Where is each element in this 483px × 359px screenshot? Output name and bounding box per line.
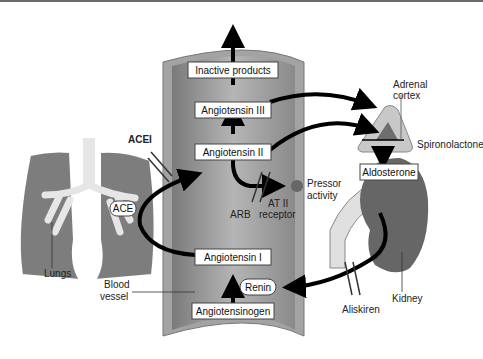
angiotensinogen-label: Angiotensinogen (196, 306, 271, 317)
adrenal-label-2: cortex (393, 90, 420, 101)
angiotensin-i-label: Angiotensin I (204, 252, 262, 263)
blood-vessel-label-2: vessel (100, 291, 128, 302)
angiotensin-iii-label: Angiotensin III (201, 105, 264, 116)
at2-label-1: AT II (268, 198, 288, 209)
adrenal-label-1: Adrenal (393, 79, 427, 90)
raas-diagram: Inactive products Angiotensin III Angiot… (0, 0, 483, 359)
pressor-label-2: activity (307, 190, 338, 201)
acei-label: ACEI (128, 134, 152, 145)
lungs-label: Lungs (44, 268, 71, 279)
blood-vessel-label-1: Blood (104, 279, 130, 290)
aldosterone-label: Aldosterone (362, 167, 416, 178)
renin-label: Renin (245, 282, 271, 293)
at2-receptor-dot (291, 180, 303, 192)
ace-label: ACE (113, 203, 134, 214)
at2-label-2: receptor (259, 209, 296, 220)
kidney-label: Kidney (392, 293, 423, 304)
inactive-products-label: Inactive products (195, 65, 271, 76)
spironolactone-label: Spironolactone (417, 139, 483, 150)
angiotensin-ii-label: Angiotensin II (203, 147, 264, 158)
aliskiren-label: Aliskiren (342, 304, 380, 315)
arb-label: ARB (230, 209, 251, 220)
pressor-label-1: Pressor (307, 178, 342, 189)
